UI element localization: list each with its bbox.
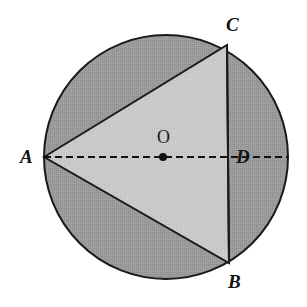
vertex-label-a: A <box>20 147 33 166</box>
geometry-figure: A C B D O <box>0 0 307 307</box>
vertex-label-b: B <box>228 272 241 291</box>
vertex-label-c: C <box>226 15 239 34</box>
figure-canvas <box>0 0 307 307</box>
center-point-dot <box>159 153 167 161</box>
center-label-o: O <box>157 128 170 146</box>
vertex-label-d: D <box>236 147 250 166</box>
